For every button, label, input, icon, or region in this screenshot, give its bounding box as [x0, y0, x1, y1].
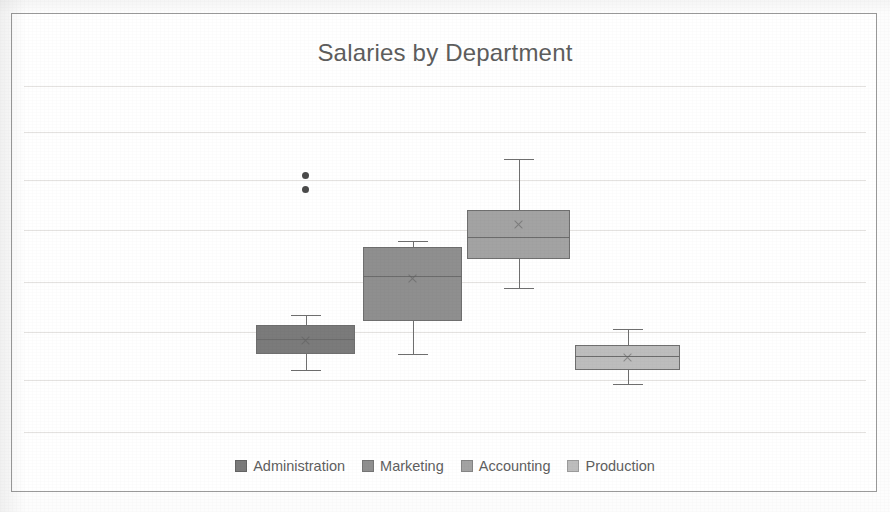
legend-label: Marketing [380, 458, 444, 474]
whisker-cap-upper [613, 329, 643, 330]
whisker-lower [628, 370, 629, 384]
legend-swatch-icon [567, 460, 579, 472]
whisker-cap-lower [613, 384, 643, 385]
legend-item-production[interactable]: Production [567, 458, 654, 474]
box-plot-series[interactable] [363, 60, 462, 450]
legend-label: Production [585, 458, 654, 474]
box-marketing[interactable] [363, 247, 462, 321]
legend-swatch-icon [362, 460, 374, 472]
plot-area [24, 60, 866, 450]
legend-swatch-icon [235, 460, 247, 472]
whisker-cap-upper [398, 241, 428, 242]
legend-swatch-icon [461, 460, 473, 472]
box-plot-series[interactable] [467, 60, 570, 450]
whisker-cap-lower [291, 370, 321, 371]
legend-item-administration[interactable]: Administration [235, 458, 345, 474]
chart-legend: AdministrationMarketingAccountingProduct… [12, 458, 878, 474]
mean-marker [513, 219, 524, 230]
whisker-cap-lower [398, 354, 428, 355]
box-plot-series[interactable] [256, 60, 355, 450]
whisker-upper [306, 315, 307, 325]
whisker-cap-upper [504, 159, 534, 160]
whisker-upper [628, 329, 629, 345]
box-accounting[interactable] [467, 210, 570, 259]
legend-item-accounting[interactable]: Accounting [461, 458, 551, 474]
chart-frame: Salaries by Department AdministrationMar… [11, 13, 877, 492]
outlier-point[interactable] [302, 172, 309, 179]
legend-label: Administration [253, 458, 345, 474]
median-line [467, 237, 570, 238]
whisker-cap-upper [291, 315, 321, 316]
box-plot-series[interactable] [575, 60, 680, 450]
whisker-lower [306, 354, 307, 370]
outlier-point[interactable] [302, 186, 309, 193]
mean-marker [300, 335, 311, 346]
mean-marker [622, 352, 633, 363]
legend-label: Accounting [479, 458, 551, 474]
whisker-lower [519, 259, 520, 288]
mean-marker [407, 273, 418, 284]
whisker-cap-lower [504, 288, 534, 289]
legend-item-marketing[interactable]: Marketing [362, 458, 444, 474]
scanned-page: Salaries by Department AdministrationMar… [0, 0, 890, 512]
whisker-upper [519, 159, 520, 210]
whisker-lower [413, 321, 414, 354]
